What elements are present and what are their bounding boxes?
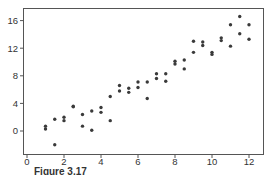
- data-point: [210, 53, 213, 56]
- data-point: [99, 106, 102, 109]
- data-point: [229, 44, 232, 47]
- data-point: [247, 23, 250, 26]
- data-point: [53, 118, 56, 121]
- y-tick-label: 16: [7, 15, 18, 26]
- x-tick-label: 2: [61, 156, 66, 165]
- data-point: [62, 116, 65, 119]
- data-point: [247, 38, 250, 41]
- figure-label: Figure 3.17: [34, 166, 87, 175]
- data-point: [72, 105, 75, 108]
- x-tick-label: 4: [98, 156, 103, 165]
- data-point: [164, 80, 167, 83]
- data-point: [127, 87, 130, 90]
- x-tick-label: 10: [207, 156, 218, 165]
- data-point: [109, 119, 112, 122]
- data-point: [164, 72, 167, 75]
- data-point: [238, 15, 241, 18]
- y-tick-label: 8: [13, 70, 18, 81]
- x-tick-label: 12: [244, 156, 255, 165]
- data-point: [90, 109, 93, 112]
- x-tick-label: 6: [135, 156, 140, 165]
- data-point: [146, 97, 149, 100]
- data-point: [238, 32, 241, 35]
- data-point: [173, 62, 176, 65]
- data-point: [192, 40, 195, 43]
- y-tick-label: 12: [7, 43, 18, 54]
- x-tick-label: 8: [172, 156, 177, 165]
- data-point: [109, 95, 112, 98]
- figure-caption: Figure 3.17: [34, 166, 87, 175]
- data-point: [183, 58, 186, 61]
- data-point: [62, 119, 65, 122]
- data-point: [220, 39, 223, 42]
- data-point: [146, 80, 149, 83]
- data-point: [118, 89, 121, 92]
- data-point: [183, 67, 186, 70]
- data-point: [99, 111, 102, 114]
- y-tick-label: 4: [13, 98, 18, 109]
- data-point: [136, 80, 139, 83]
- data-point: [44, 127, 47, 130]
- data-point: [155, 72, 158, 75]
- data-point: [53, 143, 56, 146]
- y-tick-label: 0: [13, 125, 18, 136]
- data-point: [155, 77, 158, 80]
- x-tick-label: 0: [24, 156, 29, 165]
- x-axis: 024681012: [24, 155, 254, 166]
- data-point: [81, 124, 84, 127]
- data-point: [118, 84, 121, 87]
- data-point: [201, 40, 204, 43]
- scatter-chart: 0481216 024681012: [0, 0, 272, 165]
- data-point: [201, 44, 204, 47]
- y-axis: 0481216: [7, 15, 23, 136]
- data-point: [90, 129, 93, 132]
- data-point: [192, 51, 195, 54]
- data-point: [127, 91, 130, 94]
- data-point: [81, 113, 84, 116]
- data-point: [136, 86, 139, 89]
- data-points: [44, 15, 251, 147]
- data-point: [229, 23, 232, 26]
- plot-frame: [24, 9, 264, 155]
